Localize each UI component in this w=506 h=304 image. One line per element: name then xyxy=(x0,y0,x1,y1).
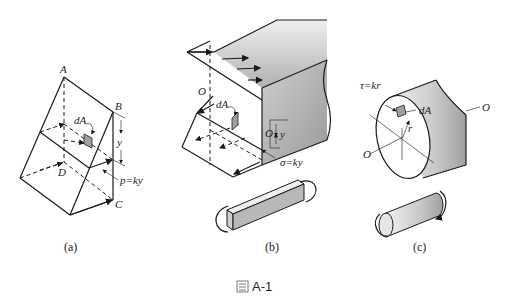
label-D: D xyxy=(57,166,66,178)
label-stress: σ=ky xyxy=(280,156,303,168)
label-r: r xyxy=(408,122,413,134)
label-shear: τ=kr xyxy=(360,79,381,91)
panel-a-diagram xyxy=(20,77,125,215)
caption-c: (c) xyxy=(413,240,426,254)
label-O-side: O xyxy=(265,127,273,139)
label-O-right: O xyxy=(482,101,490,113)
label-y: y xyxy=(116,136,122,148)
label-dA-c: dA xyxy=(419,104,432,116)
figure-caption: A-1 xyxy=(252,279,272,294)
caption-a: (a) xyxy=(64,240,77,254)
label-y-b: y xyxy=(279,128,285,140)
label-dA-b: dA xyxy=(216,98,229,110)
caption-b: (b) xyxy=(265,240,279,254)
figure-icon xyxy=(237,281,248,292)
label-pressure: p=ky xyxy=(119,174,143,186)
panel-b-diagram xyxy=(182,20,331,232)
label-dA: dA xyxy=(74,114,87,126)
label-B: B xyxy=(115,100,122,112)
label-C: C xyxy=(115,198,123,210)
label-O-top: O xyxy=(198,85,206,97)
label-O-left: O xyxy=(363,148,371,160)
label-A: A xyxy=(59,63,67,75)
figure-canvas: A B C D dA y p=ky (a) xyxy=(0,0,506,304)
